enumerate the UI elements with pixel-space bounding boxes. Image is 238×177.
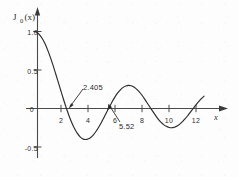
- y-tick-label-2: 0.5: [12, 63, 38, 77]
- svg-text:12: 12: [192, 117, 200, 124]
- svg-text:x: x: [214, 112, 218, 122]
- svg-text:5.52: 5.52: [119, 122, 134, 131]
- x-axis: [26, 106, 228, 112]
- x-tick-label-2: 2: [53, 113, 69, 126]
- annotation-2405-label: 2.405: [83, 80, 119, 93]
- svg-text:2.405: 2.405: [83, 83, 103, 92]
- annotation-2405-arrow: [69, 89, 83, 109]
- x-tick-label-10: 10: [160, 113, 178, 126]
- svg-text:-0.5: -0.5: [25, 145, 38, 152]
- bessel-function-figure: J 0 (x) x 1.0 0.5 0 -0.5 2 4 6 8 10 12 2…: [0, 0, 238, 177]
- svg-text:0.5: 0.5: [27, 68, 38, 75]
- y-axis-label-base: J: [13, 12, 17, 22]
- svg-text:0: 0: [30, 106, 34, 113]
- svg-text:10: 10: [165, 117, 173, 124]
- svg-text:1.0: 1.0: [27, 29, 38, 36]
- x-tick-label-12: 12: [187, 113, 205, 126]
- y-tick-label-1: 1.0: [12, 24, 38, 38]
- y-tick-label-4: -0.5: [8, 140, 38, 154]
- svg-text:6: 6: [113, 117, 117, 124]
- y-axis-label-subscript: 0: [20, 17, 23, 24]
- annotation-552-label: 5.52: [119, 119, 151, 132]
- x-axis-label: x: [214, 110, 230, 124]
- svg-text:4: 4: [86, 117, 90, 124]
- y-axis-label: J 0 (x): [13, 8, 53, 24]
- y-tick-label-3: 0: [12, 101, 34, 115]
- svg-text:2: 2: [59, 117, 63, 124]
- x-tick-label-4: 4: [80, 113, 96, 126]
- y-axis-label-arg: (x): [25, 12, 36, 22]
